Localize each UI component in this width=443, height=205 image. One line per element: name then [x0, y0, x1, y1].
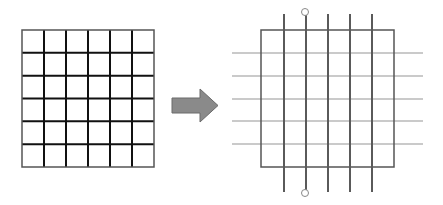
right-grid [232, 9, 423, 197]
terminal-circle-icon [302, 190, 309, 197]
diagram-canvas [0, 0, 443, 205]
terminal-circle-icon [302, 9, 309, 16]
left-grid [22, 30, 154, 167]
right-arrow-icon [172, 89, 218, 122]
